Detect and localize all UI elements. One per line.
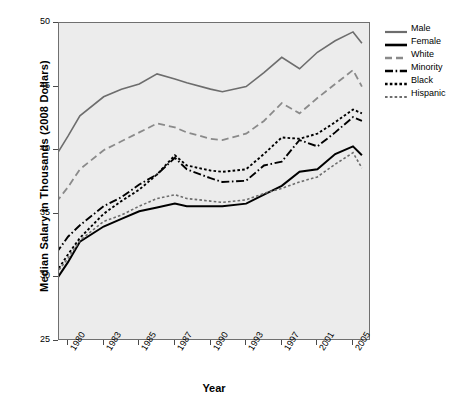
x-axis-title: Year xyxy=(58,382,370,394)
x-tick-mark xyxy=(67,340,68,345)
legend-swatch-icon xyxy=(385,49,407,59)
data-lines-svg xyxy=(59,23,371,341)
y-tick-label: 45 xyxy=(20,80,50,90)
legend-swatch-icon xyxy=(385,36,407,46)
legend-label: Female xyxy=(411,36,441,46)
plot-area xyxy=(58,22,370,340)
chart-legend: MaleFemaleWhiteMinorityBlackHispanic xyxy=(385,22,468,100)
legend-item-white: White xyxy=(385,48,468,60)
legend-item-black: Black xyxy=(385,74,468,86)
legend-item-male: Male xyxy=(385,22,468,34)
legend-item-female: Female xyxy=(385,35,468,47)
series-line-male xyxy=(59,32,362,155)
series-line-female xyxy=(59,146,362,280)
chart-figure: Median Salary in Thousands (2008 Dollars… xyxy=(0,0,468,417)
y-tick-mark xyxy=(53,340,58,341)
x-tick-mark xyxy=(245,340,246,345)
y-tick-label: 30 xyxy=(20,270,50,280)
legend-swatch-icon xyxy=(385,75,407,85)
x-tick-mark xyxy=(352,340,353,345)
legend-label: Black xyxy=(411,75,433,85)
x-tick-mark xyxy=(174,340,175,345)
x-tick-mark xyxy=(210,340,211,345)
legend-item-hispanic: Hispanic xyxy=(385,87,468,99)
legend-label: Minority xyxy=(411,62,443,72)
legend-swatch-icon xyxy=(385,62,407,72)
x-tick-mark xyxy=(103,340,104,345)
y-tick-label: 50 xyxy=(20,16,50,26)
y-tick-label: 40 xyxy=(20,143,50,153)
legend-label: Hispanic xyxy=(411,88,446,98)
legend-swatch-icon xyxy=(385,88,407,98)
y-tick-label: 35 xyxy=(20,207,50,217)
series-line-minority xyxy=(59,117,362,253)
legend-swatch-icon xyxy=(385,23,407,33)
x-tick-mark xyxy=(281,340,282,345)
legend-label: White xyxy=(411,49,434,59)
series-line-black xyxy=(59,110,362,273)
y-tick-label: 25 xyxy=(20,334,50,344)
legend-label: Male xyxy=(411,23,431,33)
legend-item-minority: Minority xyxy=(385,61,468,73)
